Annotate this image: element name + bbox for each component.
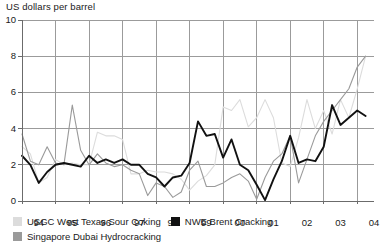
chart-legend: USGC West Texas Sour Coking NWE Brent Cr… [0,216,375,246]
axis-lines [22,20,374,201]
legend-label-usgc: USGC West Texas Sour Coking [27,216,161,227]
chart-axis-title: US dollars per barrel [6,1,95,12]
legend-swatch-usgc-icon [13,217,22,226]
legend-row-top: USGC West Texas Sour Coking NWE Brent Cr… [0,216,375,231]
y-axis-tick-label: 8 [0,50,16,61]
y-axis-tick-label: 4 [0,123,16,134]
plot-svg [0,14,375,204]
y-axis-tick-label: 10 [0,14,16,25]
legend-label-singapore: Singapore Dubai Hydrocracking [27,231,161,242]
y-axis-tick-label: 2 [0,159,16,170]
y-axis-tick-label: 6 [0,86,16,97]
y-axis-tick-label: 0 [0,195,16,206]
legend-label-nwe: NWE Brent Cracking [185,216,273,227]
legend-swatch-nwe-icon [171,217,180,226]
legend-swatch-singapore-icon [13,232,22,241]
legend-item-usgc: USGC West Texas Sour Coking [0,216,161,227]
gridlines [22,20,374,201]
plot-area: 0246810 9495969798990001020304 [0,14,375,204]
legend-item-nwe: NWE Brent Cracking [171,216,273,227]
legend-item-singapore: Singapore Dubai Hydrocracking [0,231,161,242]
legend-row-bottom: Singapore Dubai Hydrocracking [0,231,375,246]
